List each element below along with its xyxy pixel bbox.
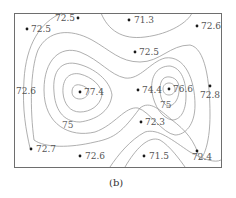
- measurement-point-marker: [134, 51, 137, 54]
- measurement-value-label: 72.3: [145, 117, 165, 127]
- measurement-value-label: 72.5: [55, 13, 75, 23]
- measurement-value-label: 77.4: [84, 87, 104, 97]
- measurement-point-marker: [209, 85, 212, 88]
- measurement-value-label: 71.3: [134, 15, 154, 25]
- measurement-point-marker: [143, 155, 146, 158]
- measurement-value-label: 72.6: [85, 151, 105, 161]
- contour-figure: 72.572.571.372.672.577.474.476.672.872.3…: [0, 0, 236, 198]
- measurement-value-label: 72.6: [201, 21, 221, 31]
- measurement-point-marker: [79, 91, 82, 94]
- measurement-value-label: 71.5: [149, 151, 169, 161]
- measurement-point-marker: [30, 148, 33, 151]
- measurement-value-label: 72.4: [192, 152, 212, 162]
- measurement-point-marker: [137, 89, 140, 92]
- measurement-point-marker: [26, 28, 29, 31]
- measurement-point-marker: [140, 121, 143, 124]
- contour-level-label: 75: [62, 120, 74, 130]
- measurement-value-label: 72.7: [36, 144, 56, 154]
- measurement-point-marker: [128, 19, 131, 22]
- measurement-point-marker: [196, 25, 199, 28]
- measurement-point-marker: [79, 155, 82, 158]
- measurement-point-marker: [77, 17, 80, 20]
- measurement-value-label: 72.5: [31, 24, 51, 34]
- edge-value-label: 72.6: [16, 86, 36, 96]
- measurement-point-marker: [168, 88, 171, 91]
- contour-level-label: 75: [160, 100, 172, 110]
- figure-caption: (b): [109, 177, 123, 188]
- measurement-value-label: 72.5: [139, 47, 159, 57]
- measurement-value-label: 74.4: [142, 85, 162, 95]
- measurement-value-label: 76.6: [173, 84, 193, 94]
- edge-labels: 72.6: [16, 86, 36, 96]
- measurement-value-label: 72.8: [200, 90, 220, 100]
